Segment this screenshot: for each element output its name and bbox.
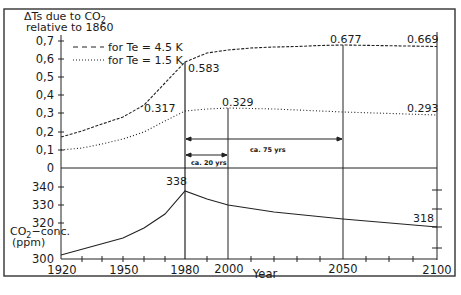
span-20-label: ca. 20 yrs bbox=[191, 159, 227, 167]
tick-330: 330 bbox=[32, 198, 54, 212]
x-axis-label: Year bbox=[252, 267, 278, 281]
co2-annotations: 338 318 bbox=[166, 175, 434, 225]
annotation-0293: 0.293 bbox=[407, 102, 439, 115]
span-75-label: ca. 75 yrs bbox=[250, 146, 286, 154]
tick-0-4: 0,4 bbox=[36, 88, 54, 102]
annotation-318: 318 bbox=[413, 212, 434, 225]
tick-340: 340 bbox=[32, 180, 54, 194]
tick-0-1: 0,1 bbox=[36, 143, 54, 157]
tick-0-5: 0,5 bbox=[36, 70, 54, 84]
tick-0-3: 0,3 bbox=[36, 106, 54, 120]
span-20-arrow bbox=[186, 153, 227, 157]
series-co2 bbox=[61, 191, 437, 255]
legend-dashed-label: for Te = 4.5 K bbox=[108, 41, 183, 54]
legend-dotted-label: for Te = 1.5 K bbox=[108, 54, 183, 67]
co2-y-tick-labels: 340 330 320 300 bbox=[32, 180, 54, 266]
xtick-1920: 1920 bbox=[47, 263, 76, 277]
tick-0-6: 0,6 bbox=[36, 52, 54, 66]
xtick-1980: 1980 bbox=[170, 263, 199, 277]
co2-y-label-2: (ppm) bbox=[12, 236, 45, 249]
annotation-0677: 0.677 bbox=[330, 33, 362, 46]
xtick-2100: 2100 bbox=[422, 263, 451, 277]
span-75-arrow bbox=[186, 137, 342, 141]
annotation-338: 338 bbox=[166, 175, 187, 188]
series-te-1-5k bbox=[61, 108, 437, 150]
temp-y-label-2: relative to 1860 bbox=[26, 21, 114, 34]
tick-0-7: 0,7 bbox=[36, 34, 54, 48]
chart-frame bbox=[4, 9, 455, 276]
xtick-1950: 1950 bbox=[109, 263, 138, 277]
annotation-0329: 0.329 bbox=[222, 96, 254, 109]
tick-0-2: 0,2 bbox=[36, 125, 54, 139]
annotation-0669: 0.669 bbox=[407, 33, 439, 46]
xtick-2050: 2050 bbox=[328, 262, 357, 276]
tick-0: 0 bbox=[47, 161, 54, 175]
x-tick-labels: 1920 1950 1980 2000 2050 2100 bbox=[47, 262, 451, 277]
co2-temperature-chart: 0 0,1 0,2 0,3 0,4 0,5 0,6 0,7 ΔTs due to… bbox=[0, 0, 461, 295]
annotation-0583: 0.583 bbox=[188, 62, 220, 75]
annotation-0317: 0.317 bbox=[144, 102, 176, 115]
legend: for Te = 4.5 K for Te = 1.5 K bbox=[73, 41, 183, 67]
temp-y-tick-labels: 0 0,1 0,2 0,3 0,4 0,5 0,6 0,7 bbox=[36, 34, 54, 175]
xtick-2000: 2000 bbox=[214, 262, 243, 276]
